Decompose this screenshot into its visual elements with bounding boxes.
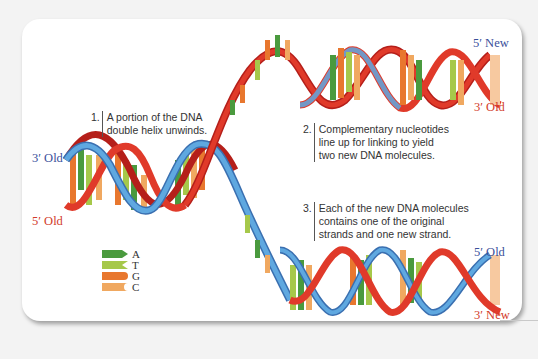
step-text-line: Complementary nucleotides [319, 123, 449, 136]
step-text-line: Each of the new DNA molecules [319, 202, 469, 215]
step-text-line: double helix unwinds. [107, 124, 207, 137]
thymine-notch-icon [102, 261, 128, 269]
step-text-line: strands and one new strand. [319, 228, 469, 241]
strand-label-upper-3-old: 3′ Old [474, 100, 505, 115]
step-3-annotation: 3. Each of the new DNA molecules contain… [303, 202, 469, 241]
base-legend: A T G C [102, 248, 140, 292]
legend-item-a: A [102, 248, 140, 259]
step-2-annotation: 2. Complementary nucleotides line up for… [303, 123, 449, 162]
step-text-line: line up for linking to yield [319, 136, 449, 149]
strand-label-left-3-old: 3′ Old [32, 151, 63, 166]
dna-replication-illustration [0, 0, 538, 359]
cytosine-cup-icon [102, 283, 128, 291]
step-number: 1. [91, 111, 102, 137]
legend-item-g: G [102, 270, 140, 281]
step-text-line: contains one of the original [319, 215, 469, 228]
step-1-annotation: 1. A portion of the DNA double helix unw… [91, 111, 207, 137]
legend-item-t: T [102, 259, 140, 270]
adenine-arrow-icon [102, 250, 128, 258]
guanine-round-icon [102, 272, 128, 280]
strand-label-lower-5-old: 5′ Old [474, 245, 505, 260]
legend-item-c: C [102, 281, 140, 292]
step-number: 3. [303, 202, 314, 241]
step-number: 2. [303, 123, 314, 162]
strand-label-lower-3-new: 3′ New [474, 308, 510, 323]
strand-label-left-5-old: 5′ Old [32, 214, 63, 229]
step-text-line: A portion of the DNA [107, 111, 207, 124]
strand-label-upper-5-new: 5′ New [473, 36, 509, 51]
step-text-line: two new DNA molecules. [319, 149, 449, 162]
